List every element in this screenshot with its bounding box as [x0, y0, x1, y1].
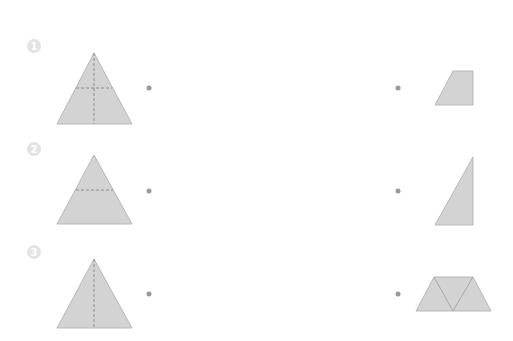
number-badge-3: 3: [27, 245, 41, 259]
triangle-folded-horizontal: [57, 155, 132, 224]
svg-text:1: 1: [31, 41, 38, 52]
triangle-folded-vertical: [57, 259, 132, 328]
row-2: 2: [27, 142, 473, 225]
number-badge-2: 2: [27, 142, 41, 156]
matching-diagram: 1 2 3: [0, 0, 513, 341]
three-triangle-trapezoid-shape: [416, 277, 491, 311]
svg-text:2: 2: [31, 144, 38, 155]
right-connector-dot-2[interactable]: [396, 189, 401, 194]
left-connector-dot-1[interactable]: [147, 86, 152, 91]
right-triangle-shape: [435, 157, 473, 225]
triangle-folded-vertical-horizontal: [57, 53, 132, 124]
svg-text:3: 3: [31, 247, 38, 258]
right-connector-dot-3[interactable]: [396, 292, 401, 297]
row-3: 3: [27, 245, 491, 328]
row-1: 1: [27, 39, 473, 124]
number-badge-1: 1: [27, 39, 41, 53]
right-trapezoid-shape: [435, 71, 473, 105]
left-connector-dot-3[interactable]: [147, 292, 152, 297]
left-connector-dot-2[interactable]: [147, 189, 152, 194]
right-connector-dot-1[interactable]: [396, 86, 401, 91]
